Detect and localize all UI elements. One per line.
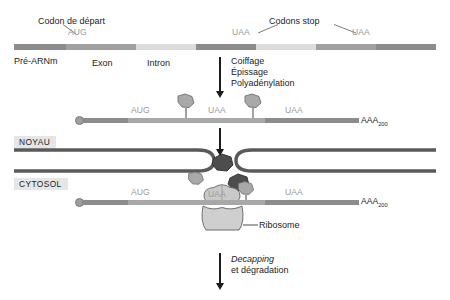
diagram-canvas: Codon de départ Codons stop AUG UAA UAA … [0, 0, 450, 300]
mature-segment-utr-5 [82, 118, 128, 123]
ejc-marker-2 [245, 94, 261, 119]
export-factor-released [189, 172, 204, 184]
cytosol-label: CYTOSOL [14, 178, 68, 190]
premrna-segment-utr-5 [14, 44, 66, 50]
export-arrow [219, 128, 221, 150]
mature-codon-uaa-1: UAA [208, 106, 226, 115]
decay-line-degradation: et dégradation [231, 266, 289, 275]
translating-codon-uaa-1: UAA [208, 190, 226, 199]
premrna-codon-uaa-2: UAA [352, 28, 370, 37]
processing-arrow [219, 57, 221, 92]
translating-segment-utr-5 [82, 200, 128, 205]
premrna-segment-exon-2 [196, 44, 256, 50]
intron-label: Intron [147, 59, 170, 68]
poly-a-subscript: 200 [378, 121, 387, 127]
ribosome-label: Ribosome [259, 221, 300, 230]
translating-codon-uaa-2: UAA [285, 188, 303, 197]
mature-codon-uaa-2: UAA [285, 106, 303, 115]
exon-label: Exon [92, 59, 113, 68]
ejc-marker-3 [238, 182, 253, 201]
premrna-segment-intron-1 [136, 44, 196, 50]
decay-arrow [219, 253, 221, 284]
premrna-label: Pré-ARNm [14, 57, 58, 66]
premrna-segment-exon-1 [66, 44, 136, 50]
poly-a-tail-cytosolic: AAA200 [361, 197, 388, 208]
premrna-segment-utr-3 [376, 44, 436, 50]
premrna-segment-intron-2 [256, 44, 316, 50]
start-codon-label: Codon de départ [38, 17, 105, 26]
translating-codon-aug: AUG [131, 188, 150, 197]
poly-a-subscript-2: 200 [378, 202, 387, 208]
mature-codon-aug: AUG [131, 106, 150, 115]
premrna-codon-uaa-1: UAA [232, 28, 250, 37]
translating-segment-cds [128, 200, 265, 205]
nucleus-label: NOYAU [14, 136, 56, 148]
ejc-marker-1 [178, 94, 194, 119]
decay-line-decapping: Decapping [231, 255, 274, 264]
translating-segment-utr-3 [265, 200, 359, 205]
export-factor-cytosolic [228, 174, 249, 191]
processing-line-1: Coiffage [231, 57, 264, 66]
mature-segment-utr-3 [265, 118, 359, 123]
poly-a-text-2: AAA [361, 196, 378, 206]
premrna-segment-exon-3 [316, 44, 376, 50]
nuclear-envelope [14, 150, 436, 171]
premrna-codon-aug: AUG [68, 28, 87, 37]
mature-segment-cds [128, 118, 265, 123]
poly-a-text: AAA [361, 115, 378, 125]
poly-a-tail-nuclear: AAA200 [361, 116, 388, 127]
stop-codons-label: Codons stop [269, 17, 320, 26]
processing-line-3: Polyadénylation [231, 79, 295, 88]
processing-line-2: Épissage [231, 68, 268, 77]
export-factor-nuclear [212, 154, 233, 171]
